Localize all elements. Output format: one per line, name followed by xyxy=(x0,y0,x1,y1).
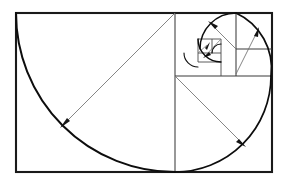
fibonacci-spiral-canvas: Fibonacci Golden Spiral Golden-ratio rec… xyxy=(0,0,288,187)
fibonacci-spiral-figure: Fibonacci Golden Spiral Golden-ratio rec… xyxy=(0,0,288,187)
figure-background xyxy=(0,0,288,187)
